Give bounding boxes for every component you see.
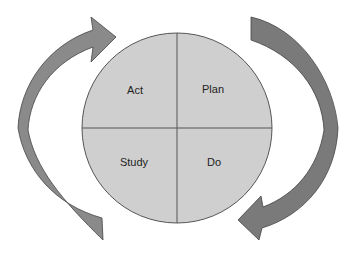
- quadrant-study: Study: [120, 156, 149, 168]
- quadrant-do: Do: [207, 156, 221, 168]
- quadrant-plan: Plan: [202, 83, 224, 95]
- pdsa-diagram: Act Plan Study Do: [0, 0, 348, 257]
- quadrant-act: Act: [127, 84, 143, 96]
